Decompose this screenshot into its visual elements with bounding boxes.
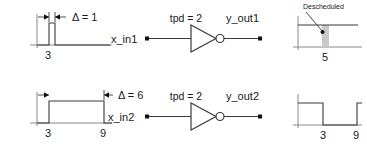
tpd-label-2: tpd = 2 <box>170 90 203 102</box>
input-terminal-2 <box>145 115 149 119</box>
timing-diagram-figure: Δ = 1 3 x_in1 tpd = 2 y_out1 Descheduled… <box>0 0 367 152</box>
time-label-4-1: 9 <box>353 129 359 141</box>
inverter-bubble-2 <box>216 113 224 121</box>
arrowhead-right-2 <box>44 92 49 98</box>
inverter-triangle-2 <box>191 103 216 130</box>
time-label-3-1: 9 <box>100 127 106 139</box>
time-label-3-0: 3 <box>45 127 51 139</box>
output-label-2: y_out2 <box>226 90 259 102</box>
signal-trace-4 <box>298 103 362 125</box>
arrowhead-left-1 <box>55 14 60 20</box>
descheduled-annotation: Descheduled <box>303 3 344 10</box>
signal-trace-1 <box>37 23 110 45</box>
inverter-bubble-1 <box>216 35 224 43</box>
output-terminal-2 <box>258 115 262 119</box>
output-terminal-1 <box>258 37 262 41</box>
input-label-2: x_in2 <box>108 111 134 123</box>
tpd-label-1: tpd = 2 <box>170 12 203 24</box>
output-label-1: y_out1 <box>226 12 259 24</box>
waveform-input-1: Δ = 1 3 <box>30 11 112 61</box>
arrowhead-left-2 <box>104 92 109 98</box>
delta-label-2: Δ = 6 <box>118 89 143 101</box>
input-terminal-1 <box>145 37 149 41</box>
time-label-1-0: 3 <box>45 49 51 61</box>
inverter-triangle-1 <box>191 25 216 52</box>
annotation-anchor-dot <box>321 30 325 34</box>
annotation-leader-line <box>306 12 323 32</box>
time-label-2-0: 5 <box>322 51 328 63</box>
waveform-output-1: Descheduled 5 <box>293 3 362 63</box>
time-label-4-0: 3 <box>320 129 326 141</box>
signal-trace-3 <box>37 101 112 123</box>
input-label-1: x_in1 <box>111 33 137 45</box>
waveform-output-2: 3 9 <box>293 94 362 141</box>
arrowhead-right-1 <box>44 14 49 20</box>
descheduled-shaded-region <box>322 25 329 47</box>
gate-inverter-1: x_in1 tpd = 2 y_out1 <box>111 12 262 52</box>
delta-label-1: Δ = 1 <box>72 11 97 23</box>
